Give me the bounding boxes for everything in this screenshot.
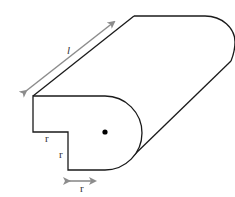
bottom-extrusion-edge — [131, 61, 231, 158]
diagram-canvas: l r r r — [0, 0, 235, 197]
front-cross-section — [33, 96, 142, 170]
radius-label-vertical: r — [59, 149, 63, 160]
back-rounded-edge — [205, 16, 235, 61]
length-dimension-arrow — [26, 22, 114, 91]
top-extrusion-edge — [33, 16, 134, 96]
length-label: l — [67, 45, 70, 56]
radius-label-bottom: r — [80, 183, 84, 194]
arc-center-dot — [102, 129, 107, 134]
radius-label-horizontal: r — [45, 133, 49, 144]
